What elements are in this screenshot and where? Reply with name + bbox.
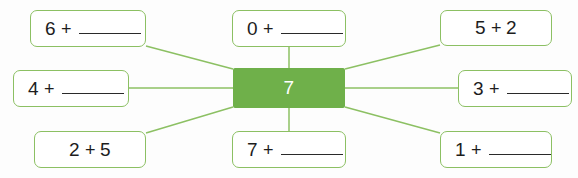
plus-sign: + [471,140,482,161]
equation: 5+2 [475,17,517,39]
equation: 0+ [247,18,343,40]
first-operand: 5 [475,17,486,39]
equation: 1+ [455,139,551,161]
equation: 6+ [45,18,141,40]
first-operand: 3 [473,78,484,100]
answer-blank[interactable] [489,140,551,155]
line-top-left [146,46,233,69]
center-sum-node[interactable]: 7 [233,68,345,108]
answer-blank[interactable] [281,19,343,34]
line-bottom-right [345,107,440,133]
line-bottom-left [146,107,233,133]
plus-sign: + [489,79,500,100]
equation: 7+ [247,139,343,161]
equation: 2+5 [69,139,111,161]
plus-sign: + [263,140,274,161]
plus-sign: + [491,18,502,39]
plus-sign: + [44,79,55,100]
first-operand: 0 [247,18,258,40]
card-bottom-center[interactable]: 7+ [232,131,346,168]
card-middle-left[interactable]: 4+ [13,70,129,107]
first-operand: 1 [455,139,466,161]
plus-sign: + [61,19,72,40]
card-bottom-left[interactable]: 2+5 [34,131,146,168]
number-bond-worksheet: 6+4+2+50+7+5+23+1+ 7 [0,0,578,178]
plus-sign: + [85,140,96,161]
card-bottom-right[interactable]: 1+ [440,131,552,168]
second-operand: 2 [506,17,517,39]
first-operand: 6 [45,18,56,40]
answer-blank[interactable] [79,19,141,34]
answer-blank[interactable] [281,140,343,155]
equation: 3+ [473,78,569,100]
first-operand: 2 [69,139,80,161]
first-operand: 7 [247,139,258,161]
center-sum-value: 7 [283,77,294,99]
first-operand: 4 [28,78,39,100]
card-top-center[interactable]: 0+ [232,10,346,47]
line-top-right [345,45,440,69]
card-middle-right[interactable]: 3+ [458,70,572,107]
second-operand: 5 [100,139,111,161]
answer-blank[interactable] [507,79,569,94]
card-top-right[interactable]: 5+2 [440,10,552,46]
answer-blank[interactable] [62,79,124,94]
plus-sign: + [263,19,274,40]
equation: 4+ [28,78,124,100]
card-top-left[interactable]: 6+ [30,10,146,47]
